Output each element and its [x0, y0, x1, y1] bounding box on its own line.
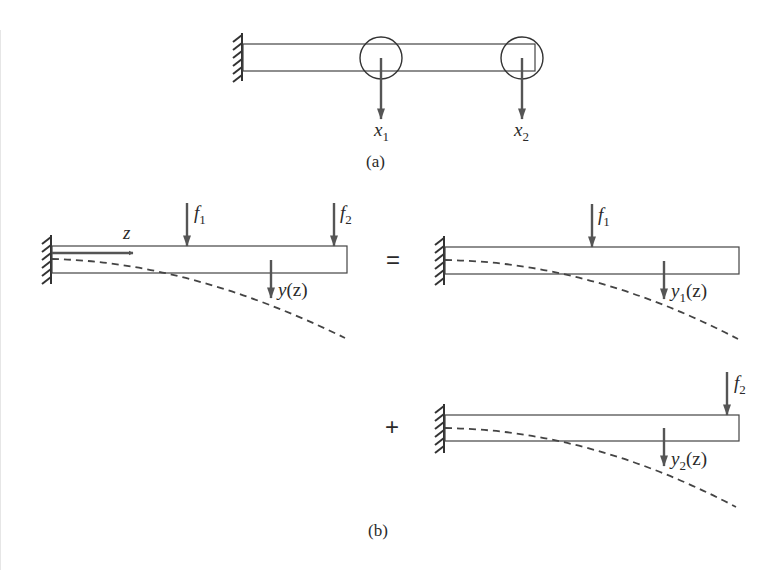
node-label-x2: x2: [514, 120, 529, 139]
fixed-wall-icon: [233, 33, 242, 82]
panel-b-main: [42, 203, 347, 338]
deflection-label-y: y(z): [278, 280, 308, 299]
beam-main: [52, 246, 347, 273]
panel-b-component-2: [435, 372, 739, 507]
plus-sign: +: [385, 415, 399, 439]
beam-a: [243, 44, 535, 71]
beam-component-2: [445, 415, 739, 441]
axis-label-z: z: [123, 223, 130, 242]
force-label-f1: f1: [194, 203, 206, 222]
caption-a: (a): [366, 153, 385, 170]
beam-component-1: [445, 247, 739, 274]
force-label-f2: f2: [340, 203, 352, 222]
fixed-wall-icon: [435, 404, 444, 453]
deflection-label-y1: y1(z): [671, 281, 707, 300]
fixed-wall-icon: [42, 235, 51, 284]
panel-a: [233, 33, 543, 119]
caption-b: (b): [368, 522, 388, 539]
force-label-f1-component: f1: [598, 205, 610, 224]
panel-b-component-1: [435, 204, 739, 339]
equals-sign: =: [386, 248, 400, 272]
cantilever-superposition-diagram: [0, 0, 782, 572]
fixed-wall-icon: [435, 236, 444, 285]
force-label-f2-component: f2: [734, 373, 746, 392]
deflection-label-y2: y2(z): [671, 449, 707, 468]
node-label-x1: x1: [374, 120, 389, 139]
